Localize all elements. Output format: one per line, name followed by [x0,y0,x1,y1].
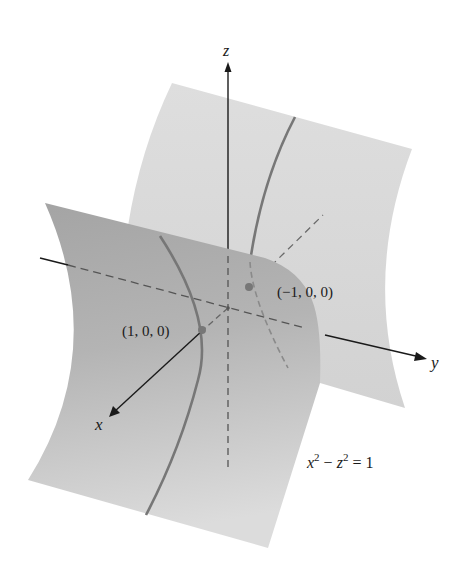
point-label-neg1-0-0: (−1, 0, 0) [277,284,333,301]
origin-point [226,306,230,310]
x-axis-label: x [94,415,103,434]
equation-minus: − [320,454,337,471]
hyperbolic-cylinder-diagram: z y x (1, 0, 0) (−1, 0, 0) x2 − z2 = 1 [0,0,469,563]
y-axis-arrowhead-icon [414,352,427,361]
equation-rhs: = 1 [348,454,373,471]
z-axis-arrowhead-icon [225,62,232,72]
point-1-0-0 [198,326,206,334]
y-axis-label: y [429,353,439,372]
equation-var-x: x [306,454,314,471]
point-neg1-0-0 [245,283,253,291]
z-axis-label: z [222,42,230,59]
surface-equation: x2 − z2 = 1 [306,451,373,471]
point-label-1-0-0: (1, 0, 0) [122,323,170,340]
y-axis-back-stub [40,258,68,265]
